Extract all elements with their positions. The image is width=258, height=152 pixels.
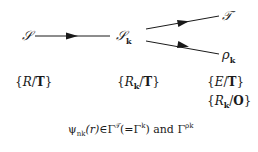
node-s: 𝒮 xyxy=(22,29,32,42)
label-var: R xyxy=(215,94,224,108)
eq-arg: (r) xyxy=(85,123,99,136)
label-t-group: {E/T} xyxy=(207,76,244,88)
label-sk-group: {Rk/T} xyxy=(117,76,160,90)
node-sk-subscript: k xyxy=(126,36,132,46)
brace-open: { xyxy=(15,75,23,89)
node-sk-symbol: 𝒮 xyxy=(116,28,126,43)
brace-close: } xyxy=(152,75,160,89)
brace-close: } xyxy=(236,75,244,89)
eq-psi: ψ xyxy=(68,123,77,136)
eq-and: and xyxy=(150,123,178,136)
node-rhok: ρk xyxy=(222,48,235,64)
node-sk: 𝒮k xyxy=(116,29,132,45)
eq-gamma3-sup: ρk xyxy=(185,122,193,130)
arrowhead-icon xyxy=(66,33,78,40)
label-var: R xyxy=(125,75,134,89)
node-s-symbol: 𝒮 xyxy=(22,28,32,43)
node-rhok-symbol: ρ xyxy=(222,47,230,62)
label-var: R xyxy=(23,75,32,89)
node-rhok-subscript: k xyxy=(230,55,236,65)
label-group: T xyxy=(143,75,152,89)
node-t: 𝒯 xyxy=(222,9,232,22)
arrowhead-icon xyxy=(177,41,189,48)
node-t-symbol: 𝒯 xyxy=(222,8,232,23)
edge-sk-to-rhok xyxy=(146,41,219,54)
brace-close: } xyxy=(244,94,252,108)
eq-gamma1: Γ xyxy=(107,123,115,136)
brace-open: { xyxy=(117,75,125,89)
label-rhok-group: {Rk/O} xyxy=(207,95,251,109)
label-group: T xyxy=(36,75,45,89)
arrowhead-icon xyxy=(177,20,189,27)
eq-paren: (= xyxy=(120,123,134,136)
label-group: O xyxy=(233,94,243,108)
brace-open: { xyxy=(207,75,215,89)
brace-close: } xyxy=(45,75,53,89)
eq-gamma3: Γ xyxy=(177,123,185,136)
label-s-group: {R/T} xyxy=(15,76,52,88)
symmetry-equation: ψnk(r)∈Γ𝒯(=Γk) and Γρk xyxy=(68,123,193,138)
brace-open: { xyxy=(207,94,215,108)
